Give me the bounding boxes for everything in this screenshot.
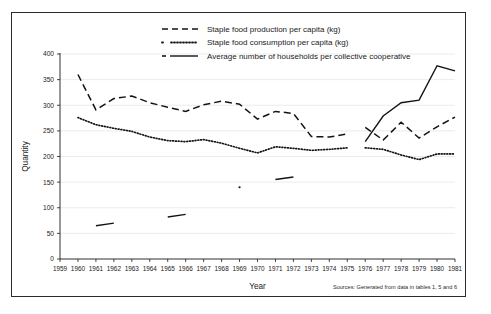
series-dotted-left [78, 118, 347, 153]
x-tick-label-1973: 1973 [304, 265, 319, 272]
series-solid-point-2 [238, 186, 240, 188]
x-tick-label-1968: 1968 [214, 265, 229, 272]
x-tick-label-1976: 1976 [358, 265, 373, 272]
x-tick-label-1978: 1978 [394, 265, 409, 272]
x-tick-label-1981: 1981 [448, 265, 463, 272]
y-tick-label-0: 0 [50, 255, 54, 262]
x-tick-label-1980: 1980 [430, 265, 445, 272]
x-tick-label-1963: 1963 [125, 265, 140, 272]
x-tick-label-1960: 1960 [71, 265, 86, 272]
x-tick-label-1959: 1959 [53, 265, 68, 272]
x-tick-label-1964: 1964 [143, 265, 158, 272]
y-tick-label-150: 150 [43, 179, 54, 186]
x-tick-label-1975: 1975 [340, 265, 355, 272]
legend-label-households: Average number of households per collect… [207, 52, 411, 61]
x-tick-label-1979: 1979 [412, 265, 427, 272]
y-tick-label-400: 400 [43, 50, 54, 57]
figure-frame: 0501001502002503003504001959196019611962… [11, 12, 466, 297]
series-dashed-left [78, 75, 347, 138]
series-solid-segment-1 [168, 214, 186, 217]
x-tick-label-1970: 1970 [250, 265, 265, 272]
series-dotted-right [365, 148, 455, 160]
x-tick-label-1961: 1961 [89, 265, 104, 272]
legend-label-production: Staple food production per capita (kg) [207, 25, 341, 34]
x-tick-label-1977: 1977 [376, 265, 391, 272]
x-tick-label-1965: 1965 [161, 265, 176, 272]
x-tick-label-1962: 1962 [107, 265, 122, 272]
y-axis-title: Quantity [21, 140, 30, 171]
y-tick-label-100: 100 [43, 204, 54, 211]
legend-label-consumption: Staple food consumption per capita (kg) [207, 38, 349, 47]
series-dashed-right [365, 117, 455, 140]
line-chart: 0501001502002503003504001959196019611962… [12, 13, 467, 298]
y-tick-label-350: 350 [43, 76, 54, 83]
x-tick-label-1966: 1966 [179, 265, 194, 272]
y-tick-label-50: 50 [47, 230, 55, 237]
y-tick-label-200: 200 [43, 153, 54, 160]
x-tick-label-1967: 1967 [197, 265, 212, 272]
x-tick-label-1969: 1969 [232, 265, 247, 272]
x-tick-label-1972: 1972 [286, 265, 301, 272]
x-tick-label-1974: 1974 [322, 265, 337, 272]
x-axis-title: Year [249, 282, 266, 291]
source-note: Sources: Generated from data in tables 1… [333, 284, 457, 290]
y-tick-label-250: 250 [43, 127, 54, 134]
y-tick-label-300: 300 [43, 102, 54, 109]
x-tick-label-1971: 1971 [268, 265, 283, 272]
series-solid-segment-3 [275, 177, 293, 180]
series-solid-segment-0 [96, 223, 114, 226]
chart-canvas: 0501001502002503003504001959196019611962… [12, 13, 465, 296]
